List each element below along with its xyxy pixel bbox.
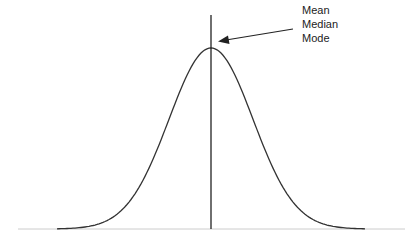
label-mode: Mode <box>302 31 338 45</box>
arrow <box>218 29 293 44</box>
label-median: Median <box>302 17 338 31</box>
label-mean: Mean <box>302 3 338 17</box>
arrow-head-icon <box>218 36 230 45</box>
normal-distribution-diagram <box>0 0 420 243</box>
annotation-labels: Mean Median Mode <box>302 3 338 45</box>
